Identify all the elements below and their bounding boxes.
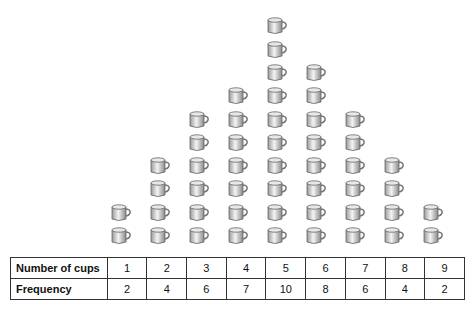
cup-icon [188, 111, 210, 129]
cup-icon [422, 227, 444, 245]
frequency-table: Number of cups 1 2 3 4 5 6 7 8 9 Frequen… [10, 257, 465, 300]
cup-icon [188, 180, 210, 198]
cup-icon [266, 157, 288, 175]
frequency-cell: 4 [147, 279, 187, 300]
cup-icon [305, 204, 327, 222]
cup-icon [383, 157, 405, 175]
cup-icon [266, 134, 288, 152]
cup-icon [305, 111, 327, 129]
cup-icon [149, 227, 171, 245]
cups-cell: 6 [306, 258, 346, 279]
cup-icon [188, 204, 210, 222]
cup-icon [344, 180, 366, 198]
frequency-cell: 6 [345, 279, 385, 300]
frequency-cell: 4 [385, 279, 425, 300]
cup-icon [266, 227, 288, 245]
cup-icon [344, 134, 366, 152]
cup-icon [227, 134, 249, 152]
frequency-cell: 2 [425, 279, 465, 300]
cup-icon [305, 64, 327, 82]
cup-icon [266, 17, 288, 35]
cup-icon [110, 227, 132, 245]
frequency-cell: 7 [226, 279, 266, 300]
cup-icon [266, 87, 288, 105]
cup-icon [110, 204, 132, 222]
cup-icon [383, 227, 405, 245]
cup-icon [149, 157, 171, 175]
cup-icon [266, 64, 288, 82]
frequency-row: Frequency 2 4 6 7 10 8 6 4 2 [11, 279, 465, 300]
cup-icon [149, 204, 171, 222]
frequency-cell: 2 [107, 279, 147, 300]
cups-cell: 8 [385, 258, 425, 279]
cup-icon [383, 204, 405, 222]
cup-icon [266, 204, 288, 222]
cup-pictograph [0, 0, 465, 258]
frequency-cell: 10 [266, 279, 306, 300]
cup-icon [149, 180, 171, 198]
cup-icon [344, 111, 366, 129]
cups-cell: 4 [226, 258, 266, 279]
row-label-frequency: Frequency [11, 279, 108, 300]
cup-icon [188, 157, 210, 175]
cup-icon [227, 87, 249, 105]
cup-icon [227, 204, 249, 222]
cups-cell: 2 [147, 258, 187, 279]
cup-icon [266, 111, 288, 129]
cup-icon [344, 227, 366, 245]
cups-cell: 9 [425, 258, 465, 279]
cups-row: Number of cups 1 2 3 4 5 6 7 8 9 [11, 258, 465, 279]
cups-cell: 5 [266, 258, 306, 279]
cup-icon [305, 134, 327, 152]
frequency-cell: 8 [306, 279, 346, 300]
cup-icon [227, 157, 249, 175]
frequency-cell: 6 [187, 279, 227, 300]
cups-cell: 1 [107, 258, 147, 279]
cup-icon [266, 41, 288, 59]
cup-icon [344, 157, 366, 175]
cup-icon [227, 111, 249, 129]
cup-icon [383, 180, 405, 198]
row-label-cups: Number of cups [11, 258, 108, 279]
cup-icon [188, 227, 210, 245]
cup-icon [227, 180, 249, 198]
cup-icon [344, 204, 366, 222]
cup-icon [422, 204, 444, 222]
cup-icon [305, 180, 327, 198]
cup-icon [305, 227, 327, 245]
cup-icon [266, 180, 288, 198]
cup-icon [227, 227, 249, 245]
cups-cell: 3 [187, 258, 227, 279]
cup-icon [305, 87, 327, 105]
cup-icon [188, 134, 210, 152]
cups-cell: 7 [345, 258, 385, 279]
cup-icon [305, 157, 327, 175]
